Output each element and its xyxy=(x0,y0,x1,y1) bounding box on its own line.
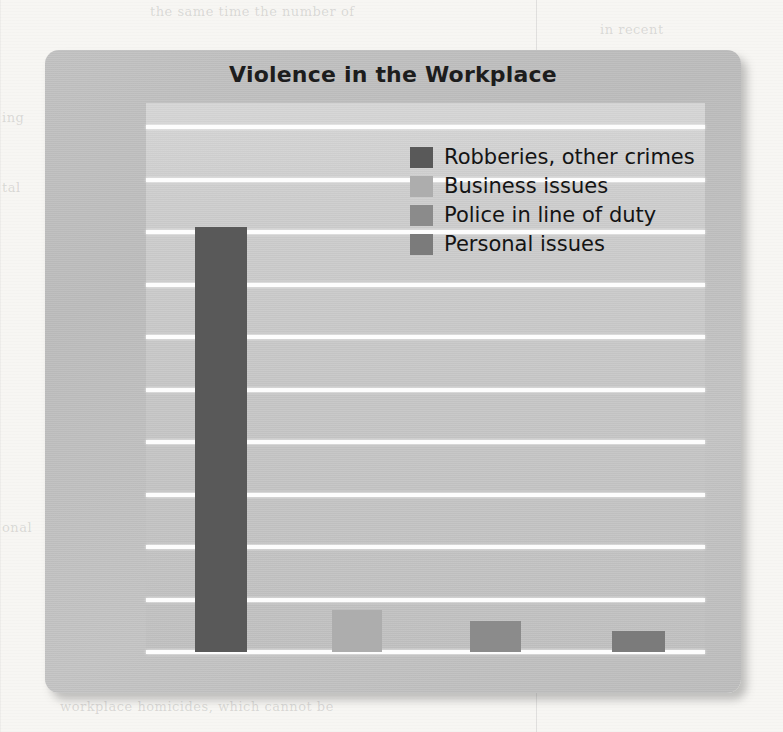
bleed-text-left-3: onal xyxy=(2,520,32,535)
legend-item-label: Robberies, other crimes xyxy=(444,147,695,168)
legend-swatch-icon xyxy=(410,147,433,168)
legend-item[interactable]: Personal issues xyxy=(410,230,695,259)
bleed-text-top: the same time the number of xyxy=(150,4,355,19)
legend-swatch-icon xyxy=(410,234,433,255)
legend-item-label: Personal issues xyxy=(444,234,605,255)
legend-item-label: Police in line of duty xyxy=(444,205,656,226)
bar[interactable] xyxy=(195,227,247,652)
legend-swatch-icon xyxy=(410,205,433,226)
plot-area: Robberies, other crimesBusiness issuesPo… xyxy=(146,103,705,655)
bleed-text-left-2: tal xyxy=(2,180,21,195)
bar[interactable] xyxy=(612,631,665,652)
legend-item-label: Business issues xyxy=(444,176,608,197)
chart-legend: Robberies, other crimesBusiness issuesPo… xyxy=(410,143,695,259)
chart-title: Violence in the Workplace xyxy=(45,62,741,87)
legend-item[interactable]: Police in line of duty xyxy=(410,201,695,230)
bar[interactable] xyxy=(332,610,382,652)
bar[interactable] xyxy=(470,621,521,653)
legend-item[interactable]: Business issues xyxy=(410,172,695,201)
bleed-text-top-right: in recent xyxy=(600,22,664,37)
bleed-text-bottom: workplace homicides, which cannot be xyxy=(60,699,334,714)
legend-swatch-icon xyxy=(410,176,433,197)
bleed-text-left-1: ing xyxy=(2,110,24,125)
legend-item[interactable]: Robberies, other crimes xyxy=(410,143,695,172)
gridline-100 xyxy=(146,125,705,129)
chart-panel: Violence in the Workplace Robberies, oth… xyxy=(45,50,741,693)
